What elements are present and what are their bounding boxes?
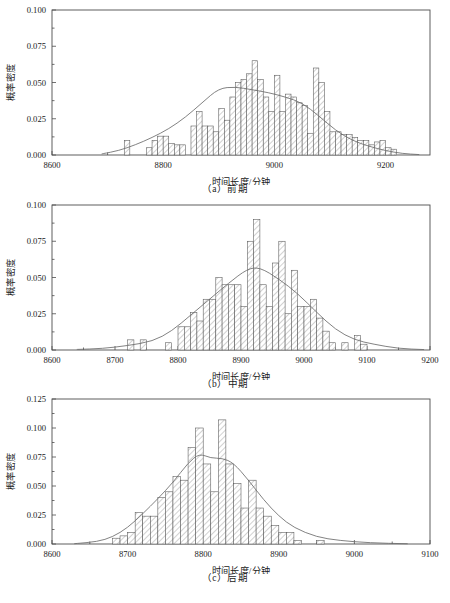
svg-text:概率密度: 概率密度 — [5, 453, 16, 490]
svg-text:0.025: 0.025 — [27, 114, 46, 124]
svg-text:0.050: 0.050 — [27, 78, 46, 88]
svg-text:0.025: 0.025 — [27, 510, 46, 520]
svg-text:9200: 9200 — [421, 355, 438, 365]
panel-c-plot: 0.0000.0250.0500.0750.1000.1258600870088… — [0, 389, 450, 574]
svg-text:0.100: 0.100 — [27, 423, 46, 433]
svg-text:8600: 8600 — [43, 160, 60, 170]
svg-text:8900: 8900 — [270, 549, 287, 559]
svg-text:0.000: 0.000 — [27, 539, 46, 549]
svg-text:8800: 8800 — [155, 160, 172, 170]
svg-text:8800: 8800 — [169, 355, 186, 365]
svg-text:8600: 8600 — [43, 549, 60, 559]
svg-text:0.050: 0.050 — [27, 272, 46, 282]
svg-text:8700: 8700 — [119, 549, 136, 559]
svg-text:8900: 8900 — [232, 355, 249, 365]
svg-text:9000: 9000 — [295, 355, 312, 365]
svg-text:9100: 9100 — [358, 355, 375, 365]
svg-text:9200: 9200 — [377, 160, 394, 170]
svg-text:0.075: 0.075 — [27, 41, 46, 51]
svg-text:0.075: 0.075 — [27, 236, 46, 246]
panel-c: 0.0000.0250.0500.0750.1000.1258600870088… — [0, 389, 450, 584]
svg-text:0.050: 0.050 — [27, 481, 46, 491]
svg-text:9000: 9000 — [346, 549, 363, 559]
svg-text:概率密度: 概率密度 — [5, 258, 16, 295]
svg-text:0.000: 0.000 — [27, 150, 46, 160]
panel-a-plot: 0.0000.0250.0500.0750.100860088009000920… — [0, 0, 450, 185]
svg-text:0.000: 0.000 — [27, 345, 46, 355]
panel-b-plot: 0.0000.0250.0500.0750.100860087008800890… — [0, 195, 450, 380]
panel-a-caption: （a）前期 — [0, 185, 450, 195]
svg-text:0.125: 0.125 — [27, 394, 46, 404]
panel-c-caption: （c）后期 — [0, 574, 450, 584]
svg-text:8800: 8800 — [195, 549, 212, 559]
svg-text:0.100: 0.100 — [27, 5, 46, 15]
panel-b: 0.0000.0250.0500.0750.100860087008800890… — [0, 195, 450, 390]
svg-text:8600: 8600 — [43, 355, 60, 365]
svg-text:概率密度: 概率密度 — [5, 64, 16, 101]
svg-text:9000: 9000 — [266, 160, 283, 170]
svg-text:8700: 8700 — [106, 355, 123, 365]
figure-container: 0.0000.0250.0500.0750.100860088009000920… — [0, 0, 450, 603]
svg-text:0.025: 0.025 — [27, 308, 46, 318]
svg-text:9100: 9100 — [421, 549, 438, 559]
panel-b-caption: （b）中期 — [0, 380, 450, 390]
svg-text:0.100: 0.100 — [27, 200, 46, 210]
svg-text:0.075: 0.075 — [27, 452, 46, 462]
panel-a: 0.0000.0250.0500.0750.100860088009000920… — [0, 0, 450, 195]
